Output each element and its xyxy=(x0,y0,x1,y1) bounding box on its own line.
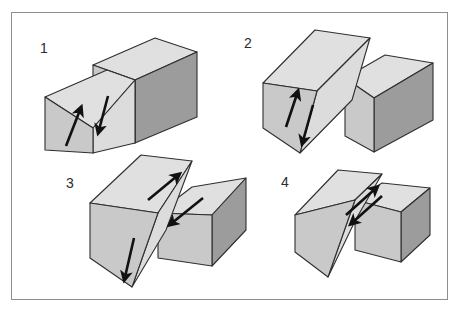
panel-2-block-group xyxy=(263,30,433,153)
figure-root: 1 2 3 4 xyxy=(0,0,465,313)
panel-3-block-group xyxy=(90,155,246,287)
panel-2-label: 2 xyxy=(244,36,252,50)
panel-3-label: 3 xyxy=(66,176,74,190)
panel-1-lower-block xyxy=(45,70,135,153)
panel-4-label: 4 xyxy=(281,175,289,189)
panel-1-label: 1 xyxy=(40,41,48,55)
panel-1-block-group xyxy=(45,38,197,153)
fault-blocks-illustration xyxy=(0,0,465,313)
panel-4-block-group xyxy=(295,170,430,277)
